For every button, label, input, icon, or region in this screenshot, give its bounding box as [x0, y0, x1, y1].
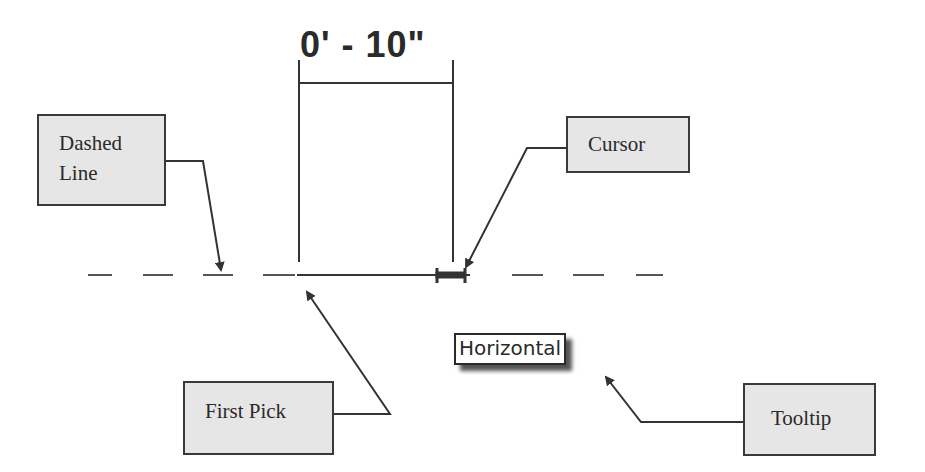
dimension-lines [299, 60, 453, 262]
leader-tooltip [606, 377, 743, 422]
callout-dashed-line: Dashed Line [37, 114, 166, 206]
horizontal-tooltip: Horizontal [454, 333, 566, 365]
cursor-glyph-icon [436, 268, 465, 283]
callout-tooltip-text: Tooltip [771, 405, 831, 431]
callout-dashed-line-text-2: Line [59, 160, 97, 186]
leader-dashed-line [165, 161, 221, 270]
dimension-value: 0' - 10" [300, 24, 426, 66]
callout-first-pick: First Pick [183, 381, 334, 455]
leader-cursor [466, 148, 566, 267]
callout-dashed-line-text-1: Dashed [59, 130, 122, 156]
callout-cursor-text: Cursor [588, 131, 645, 157]
callout-first-pick-text: First Pick [205, 398, 286, 424]
callout-cursor: Cursor [566, 116, 690, 173]
callout-tooltip: Tooltip [743, 383, 876, 456]
